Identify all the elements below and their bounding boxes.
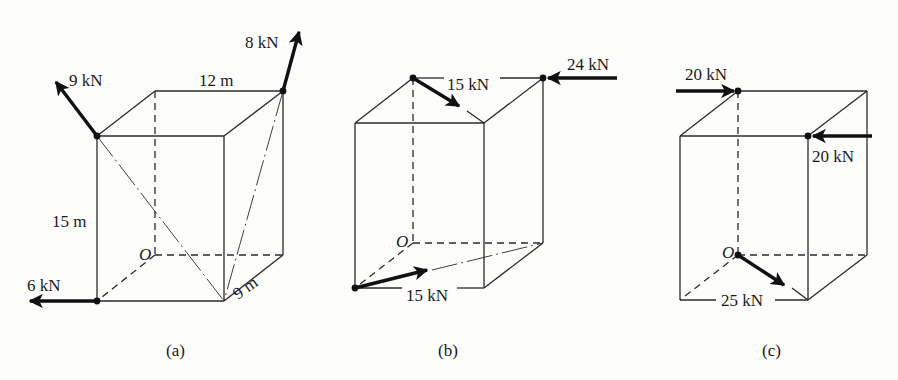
box-a-edges bbox=[97, 91, 283, 301]
dimension-label: 12 m bbox=[199, 71, 233, 90]
box-b-edges bbox=[355, 78, 543, 288]
point-icon bbox=[280, 88, 287, 95]
force-label: 15 kN bbox=[406, 286, 448, 305]
point-icon bbox=[735, 252, 742, 259]
force-label: 25 kN bbox=[721, 291, 763, 310]
point-icon bbox=[540, 75, 547, 82]
dimension-label: 15 m bbox=[52, 212, 86, 231]
origin-label: O bbox=[722, 243, 734, 262]
point-icon bbox=[94, 133, 101, 140]
dimension-label: 9 m bbox=[229, 273, 261, 304]
point-icon bbox=[805, 133, 812, 140]
force-label: 20 kN bbox=[812, 147, 854, 166]
panel-caption: (c) bbox=[762, 341, 781, 360]
force-label: 20 kN bbox=[685, 65, 727, 84]
panel-a: 9 kN 8 kN 6 kN 12 m 15 m 9 m O (a) bbox=[27, 32, 299, 360]
point-icon bbox=[352, 285, 359, 292]
point-icon bbox=[94, 298, 101, 305]
force-arrow-9kn bbox=[56, 82, 97, 136]
panel-caption: (a) bbox=[166, 341, 185, 360]
force-label: 15 kN bbox=[447, 75, 489, 94]
point-icon bbox=[410, 75, 417, 82]
force-label: 9 kN bbox=[69, 71, 103, 90]
force-label: 8 kN bbox=[245, 33, 279, 52]
figure-canvas: 9 kN 8 kN 6 kN 12 m 15 m 9 m O (a) bbox=[0, 0, 898, 380]
force-label: 24 kN bbox=[567, 55, 609, 74]
panel-b: 15 kN 24 kN 15 kN O (b) bbox=[352, 55, 617, 360]
origin-label: O bbox=[396, 232, 408, 251]
figure-svg: 9 kN 8 kN 6 kN 12 m 15 m 9 m O (a) bbox=[0, 0, 898, 380]
panel-c: 20 kN 20 kN 25 kN O (c) bbox=[676, 65, 872, 360]
force-arrow-8kn bbox=[283, 32, 299, 91]
force-arrow-25kn bbox=[738, 255, 784, 285]
point-icon bbox=[735, 88, 742, 95]
origin-label: O bbox=[139, 245, 151, 264]
force-label: 6 kN bbox=[27, 276, 61, 295]
box-c-edges bbox=[680, 91, 867, 300]
panel-caption: (b) bbox=[438, 341, 458, 360]
